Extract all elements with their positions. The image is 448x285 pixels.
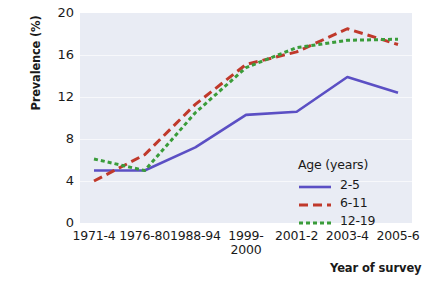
legend-item-12-19[interactable]: 12-19: [298, 211, 375, 229]
x-axis-title: Year of survey: [330, 261, 422, 275]
series-line-12-19: [94, 39, 398, 170]
chart-legend: Age (years) 2-56-1112-19: [298, 157, 375, 229]
legend-label: 12-19: [340, 213, 375, 228]
legend-swatch-icon: [298, 196, 332, 208]
legend-title: Age (years): [298, 157, 375, 172]
y-tick-label: 12: [4, 90, 74, 104]
legend-item-2-5[interactable]: 2-5: [298, 175, 375, 193]
legend-label: 2-5: [340, 177, 360, 192]
x-tick-label: 2005-6: [365, 229, 431, 243]
chart-figure: Prevalence (%) 048121620 1971-41976-8019…: [0, 0, 448, 285]
y-tick-label: 16: [4, 48, 74, 62]
legend-swatch-icon: [298, 178, 332, 190]
legend-item-6-11[interactable]: 6-11: [298, 193, 375, 211]
y-tick-label: 0: [4, 216, 74, 230]
y-tick-label: 4: [4, 174, 74, 188]
legend-swatch-icon: [298, 214, 332, 226]
y-tick-label: 8: [4, 132, 74, 146]
legend-label: 6-11: [340, 195, 368, 210]
y-tick-label: 20: [4, 6, 74, 20]
